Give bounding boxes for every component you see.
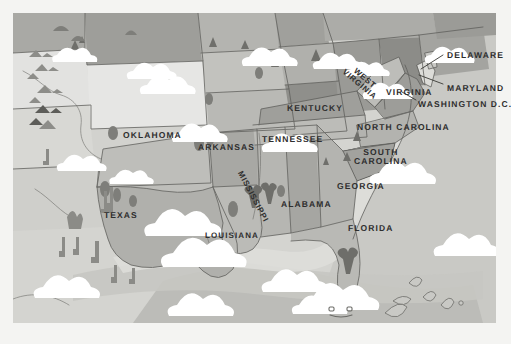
map-frame: [13, 13, 496, 323]
state-region-arizona-newmexico: [13, 165, 105, 231]
state-region-minnesota: [275, 13, 329, 47]
map-screenshot: OKLAHOMAARKANSASTEXASLOUISIANAMISSISSIPP…: [0, 0, 511, 344]
state-region-montana: [85, 13, 203, 65]
map-illustration: [13, 13, 496, 323]
state-northeast-coast: [433, 13, 496, 39]
